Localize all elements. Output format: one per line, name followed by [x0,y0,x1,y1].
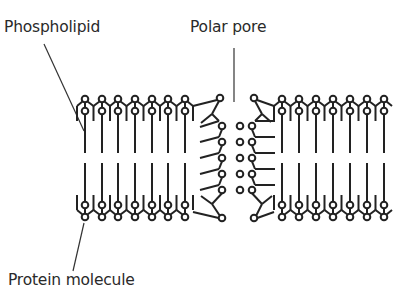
phospholipid-head [82,202,89,209]
outer-head [132,96,139,103]
protein-branch [201,114,212,123]
protein-head [219,215,226,222]
bond-line [325,102,331,107]
outer-head [132,214,139,221]
outer-head [82,96,89,103]
protein-bond [257,100,274,106]
protein-bond [252,193,262,204]
protein-head [249,123,256,130]
protein-leader-line [73,223,84,271]
bond-line [308,210,314,215]
phospholipid-head [132,202,139,209]
phospholipid-head [296,108,303,115]
protein-bond [193,100,217,106]
protein-head [219,187,226,194]
protein-bond [193,212,219,218]
bond-line [291,210,297,215]
outer-head [82,214,89,221]
outer-head [364,96,371,103]
phospholipid-head [313,202,320,209]
phospholipid-head [364,108,371,115]
bond-line [144,102,150,107]
phospholipid-head [330,108,337,115]
phospholipid-head [364,202,371,209]
protein-bond [219,177,222,185]
outer-head [99,96,106,103]
protein-head [219,123,226,130]
protein-head [249,155,256,162]
bond-line [160,102,166,107]
membrane-diagram [0,0,406,307]
protein-head [249,139,256,146]
bond-line [144,210,150,215]
pore-lining-head [237,139,244,146]
protein-bond [212,101,219,114]
protein-branch [201,196,212,204]
outer-head [149,214,156,221]
bond-line [127,210,133,215]
outer-head [364,214,371,221]
outer-head [165,214,172,221]
protein-head [249,171,256,178]
phospholipid-head [182,202,189,209]
outer-head [381,214,388,221]
protein-head [219,171,226,178]
phospholipid-head [99,108,106,115]
protein-bond [212,114,219,121]
bond-line [376,210,382,215]
phospholipid-head [296,202,303,209]
pore-lining-head [237,123,244,130]
protein-bond [252,177,255,185]
bond-line [88,210,94,215]
bond-line [155,210,161,215]
bond-line [376,102,382,107]
phospholipid-head [115,202,122,209]
bond-line [342,210,348,215]
bond-line [177,102,183,107]
bond-line [353,210,359,215]
bond-line [121,210,127,215]
protein-bond [257,212,274,218]
protein-head [217,95,224,102]
outer-head [330,96,337,103]
protein-head [249,187,256,194]
bond-line [342,102,348,107]
phospholipid-head [99,202,106,209]
bond-line [336,102,342,107]
pore-lining-head [237,155,244,162]
bond-line [77,102,83,107]
outer-head [296,214,303,221]
bond-line [138,102,144,107]
outer-head [313,96,320,103]
protein-bond [252,161,255,169]
protein-bond [252,129,255,137]
outer-head [347,96,354,103]
bond-line [94,102,100,107]
phospholipid-head [165,202,172,209]
outer-head [149,96,156,103]
protein-head [219,155,226,162]
protein-head [251,95,258,102]
outer-head [313,214,320,221]
phospholipid-head [381,108,388,115]
protein-bond [256,204,262,216]
bond-line [285,210,291,215]
bond-line [302,102,308,107]
outer-head [99,214,106,221]
pore-lining-head [237,187,244,194]
phospholipid-head [330,202,337,209]
bond-line [319,210,325,215]
protein-side-chain [200,137,219,142]
bond-line [359,210,365,215]
protein-bond [255,114,262,121]
bond-line [188,102,194,107]
phospholipid-head [347,108,354,115]
phospholipid-head [149,202,156,209]
bond-line [319,102,325,107]
protein-head [219,139,226,146]
outer-head [330,214,337,221]
outer-head [182,96,189,103]
bond-line [127,102,133,107]
membrane-structure [77,95,392,222]
outer-head [381,96,388,103]
